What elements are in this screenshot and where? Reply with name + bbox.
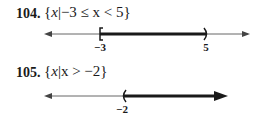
tick-label-left: −2 <box>116 103 128 115</box>
arrow-left-icon <box>44 93 52 99</box>
arrow-right-icon <box>214 91 228 101</box>
number-line-105 <box>0 0 264 118</box>
